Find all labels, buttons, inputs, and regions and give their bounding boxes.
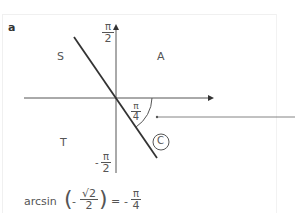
angle-label: π 4 xyxy=(131,101,141,122)
quadrant-c-label: C xyxy=(157,135,164,146)
y-bottom-den: 2 xyxy=(101,163,111,174)
pointer-dot xyxy=(156,116,158,118)
y-top-den: 2 xyxy=(102,33,114,44)
formula-arg-den: 2 xyxy=(80,200,98,211)
angle-den: 4 xyxy=(131,112,141,122)
quadrant-a-label: A xyxy=(157,50,165,63)
formula-func: arcsin xyxy=(24,195,57,208)
formula-result-den: 4 xyxy=(131,200,141,211)
y-bottom-sign: - xyxy=(95,157,99,168)
quadrant-s-label: S xyxy=(57,50,64,63)
formula-arg-sign: - xyxy=(72,195,76,208)
formula-result-sign: - xyxy=(124,195,128,208)
quadrant-t-label: T xyxy=(60,136,67,149)
x-axis-arrow-icon xyxy=(208,95,214,101)
formula-paren-close: ) xyxy=(99,188,108,210)
y-top-label: π 2 xyxy=(102,21,114,44)
formula-equals: = xyxy=(111,195,120,208)
unit-circle-diagram xyxy=(0,0,295,213)
